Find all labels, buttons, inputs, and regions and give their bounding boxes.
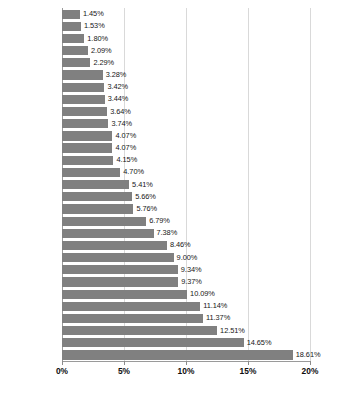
bar-value-label: 3.28%	[106, 69, 127, 81]
bar-row: India12.51%	[62, 324, 310, 336]
bar	[62, 46, 88, 55]
bar-value-label: 3.44%	[108, 93, 129, 105]
bar-value-label: 11.14%	[203, 300, 227, 312]
bar	[62, 168, 120, 177]
bar-row: Nigeria1.53%	[62, 20, 310, 32]
bar-row: Switzerland11.14%	[62, 300, 310, 312]
bar-value-label: 14.65%	[247, 337, 272, 349]
bar	[62, 290, 187, 299]
bar-value-label: 10.09%	[190, 288, 215, 300]
bar	[62, 192, 132, 201]
bar-row: Mexico5.76%	[62, 203, 310, 215]
bar-row: Brazil3.44%	[62, 93, 310, 105]
bar-value-label: 9.37%	[181, 276, 202, 288]
bar-row: Chile3.64%	[62, 105, 310, 117]
bar-row: New Zealand2.29%	[62, 57, 310, 69]
tick-mark-20pct	[310, 361, 311, 365]
x-axis-tick-label: 0%	[56, 366, 68, 376]
bar-value-label: 7.38%	[157, 227, 178, 239]
bar-row: Russia9.00%	[62, 251, 310, 263]
bar-row: Argentina2.09%	[62, 45, 310, 57]
bar-row: Korea5.41%	[62, 178, 310, 190]
bar	[62, 253, 174, 262]
bar-row: Turkey4.70%	[62, 166, 310, 178]
bar	[62, 180, 129, 189]
tick-mark-0pct	[62, 361, 63, 365]
bar-value-label: 4.70%	[123, 166, 144, 178]
bar	[62, 107, 107, 116]
bar	[62, 229, 154, 238]
bar-row: China9.34%	[62, 264, 310, 276]
bar-row: UK4.07%	[62, 142, 310, 154]
bar-chart-figure: Norway1.45%Nigeria1.53%Sweden1.80%Argent…	[0, 0, 340, 408]
x-axis-tick-label: 10%	[178, 366, 195, 376]
bar-row: Singapore8.46%	[62, 239, 310, 251]
bar-row: Indonesia4.07%	[62, 130, 310, 142]
bar-row: Norway1.45%	[62, 8, 310, 20]
bar-row: Australia4.15%	[62, 154, 310, 166]
bar-value-label: 3.64%	[110, 106, 131, 118]
gridline-20pct	[310, 8, 311, 361]
bar	[62, 156, 113, 165]
bar-value-label: 4.15%	[116, 154, 137, 166]
tick-mark-5pct	[124, 361, 125, 365]
bar	[62, 217, 146, 226]
bar-value-label: 3.74%	[111, 118, 132, 130]
bar-value-label: 5.76%	[136, 203, 157, 215]
bar-row: South Africa3.42%	[62, 81, 310, 93]
bar	[62, 70, 103, 79]
tick-mark-10pct	[186, 361, 187, 365]
x-axis-tick-label: 5%	[118, 366, 130, 376]
bar-row: Israel5.66%	[62, 191, 310, 203]
bar	[62, 338, 244, 347]
bar-value-label: 4.07%	[115, 130, 136, 142]
bar-row: Hong Kong14.65%	[62, 337, 310, 349]
bar	[62, 314, 203, 323]
bar-value-label: 18.61%	[296, 349, 321, 361]
bar-value-label: 3.42%	[107, 81, 128, 93]
bar-row: Thailand11.37%	[62, 312, 310, 324]
bar-value-label: 1.45%	[83, 8, 104, 20]
bar	[62, 265, 178, 274]
bar-value-label: 1.80%	[87, 33, 108, 45]
bar-value-label: 11.37%	[206, 312, 230, 324]
bar	[62, 204, 133, 213]
bar	[62, 22, 81, 31]
bar	[62, 326, 217, 335]
bar-row: Taiwan9.37%	[62, 276, 310, 288]
bar	[62, 95, 105, 104]
bar	[62, 10, 80, 19]
bar	[62, 302, 200, 311]
bar-row: Japan18.61%	[62, 349, 310, 361]
bar-row: Denmark3.28%	[62, 69, 310, 81]
bar-value-label: 9.00%	[177, 252, 198, 264]
bar-value-label: 2.29%	[93, 57, 114, 69]
bar	[62, 34, 84, 43]
bar-value-label: 1.53%	[84, 20, 105, 32]
bar	[62, 143, 112, 152]
bar-value-label: 9.34%	[181, 264, 202, 276]
bar-value-label: 5.41%	[132, 179, 153, 191]
bar	[62, 350, 293, 359]
bar-value-label: 12.51%	[220, 325, 245, 337]
bar-row: Canada3.74%	[62, 118, 310, 130]
bar-rows-group: Norway1.45%Nigeria1.53%Sweden1.80%Argent…	[62, 8, 310, 361]
bar-row: Colombia6.79%	[62, 215, 310, 227]
bar	[62, 119, 108, 128]
bar	[62, 58, 90, 67]
bar-value-label: 2.09%	[91, 45, 112, 57]
tick-mark-15pct	[248, 361, 249, 365]
bar-row: US7.38%	[62, 227, 310, 239]
bar	[62, 83, 104, 92]
bar-value-label: 4.07%	[115, 142, 136, 154]
plot-area: Norway1.45%Nigeria1.53%Sweden1.80%Argent…	[62, 8, 310, 361]
bar	[62, 277, 178, 286]
bar-value-label: 8.46%	[170, 239, 191, 251]
bar-row: Eurozone10.09%	[62, 288, 310, 300]
x-axis-tick-label: 20%	[302, 366, 319, 376]
bar	[62, 131, 112, 140]
bar-value-label: 6.79%	[149, 215, 170, 227]
bar-value-label: 5.66%	[135, 191, 156, 203]
bar-row: Sweden1.80%	[62, 32, 310, 44]
x-axis-tick-label: 15%	[240, 366, 257, 376]
